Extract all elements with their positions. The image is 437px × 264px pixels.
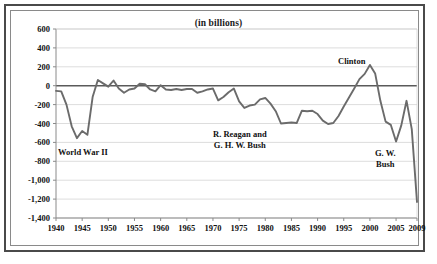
annotation-line: G. H. W. Bush (213, 140, 267, 151)
annotation-line: G. W. (375, 148, 396, 159)
annotation-world-war-ii: World War II (58, 147, 108, 158)
annotation-line: Bush (375, 159, 396, 170)
annotation-line: R. Reagan and (213, 129, 267, 140)
annotation-gw-bush: G. W.Bush (375, 148, 396, 170)
annotation-line: World War II (58, 147, 108, 158)
chart-figure: (in billions) 6004002000-200-400-600-800… (0, 0, 437, 264)
annotation-clinton: Clinton (338, 56, 365, 67)
annotation-reagan-ghw-bush: R. Reagan andG. H. W. Bush (213, 129, 267, 151)
annotation-line: Clinton (338, 56, 365, 67)
